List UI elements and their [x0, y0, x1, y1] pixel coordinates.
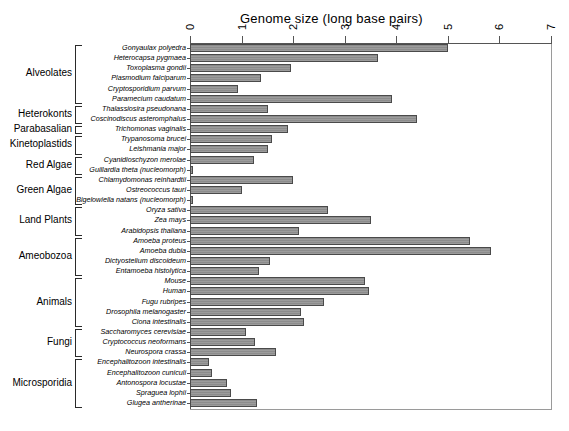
bar [190, 237, 470, 245]
group-bracket [75, 177, 82, 205]
x-tick-label-1: 1 [236, 20, 248, 34]
bar-row: Neurospora crassa [190, 348, 551, 358]
axis-line-right [551, 44, 552, 409]
bar-row: Heterocapsa pygmaea [190, 54, 551, 64]
bar [190, 196, 193, 204]
species-label: Thalassiosira pseudonana [102, 104, 186, 114]
x-tick-label-3: 3 [339, 20, 351, 34]
x-tick-label-5: 5 [442, 20, 454, 34]
species-label: Leishmania major [129, 144, 186, 154]
group-bracket [75, 136, 82, 154]
species-label: Ciona intestinalis [132, 317, 186, 327]
group-label-kinetoplastids: Kinetoplastids [0, 138, 72, 149]
bar [190, 227, 299, 235]
bar [190, 156, 254, 164]
bar [190, 318, 304, 326]
bar-row: Thalassiosira pseudonana [190, 105, 551, 115]
group-label-microsporidia: Microsporidia [0, 377, 72, 388]
species-label: Cryptosporidium parvum [108, 84, 186, 94]
x-tick-6 [499, 36, 500, 43]
bar [190, 64, 291, 72]
bar [190, 257, 270, 265]
bar-row: Fugu rubripes [190, 298, 551, 308]
x-tick-label-0: 0 [184, 20, 196, 34]
bar-row: Spraguea lophii [190, 389, 551, 399]
bar [190, 95, 392, 103]
bar [190, 338, 255, 346]
bar-row: Human [190, 287, 551, 297]
bar-row: Zea mays [190, 216, 551, 226]
species-label: Ostreococcus tauri [126, 185, 186, 195]
species-label: Glugea antherinae [127, 398, 186, 408]
species-label: Encephalitozoon intestinalis [97, 357, 186, 367]
bar-row: Arabidopsis thaliana [190, 227, 551, 237]
bar-row: Entamoeba histolytica [190, 267, 551, 277]
bar [190, 399, 257, 407]
x-tick-1 [242, 36, 243, 43]
bar [190, 287, 369, 295]
x-tick-0 [190, 36, 191, 43]
group-bracket [75, 278, 82, 327]
species-label: Gonyaulax polyedra [122, 43, 186, 53]
bar [190, 247, 491, 255]
bar-row: Paramecium caudatum [190, 95, 551, 105]
bar [190, 328, 246, 336]
species-label: Fugu rubripes [142, 297, 186, 307]
group-bracket [75, 207, 82, 235]
species-label: Amoeba dubia [140, 246, 186, 256]
group-bracket [75, 157, 82, 175]
bar [190, 115, 417, 123]
bar [190, 186, 242, 194]
species-label: Amoeba proteus [133, 236, 186, 246]
species-label: Trypanosoma brucei [121, 134, 186, 144]
group-label-land-plants: Land Plants [0, 214, 72, 225]
x-tick-2 [293, 36, 294, 43]
group-bracket [75, 329, 82, 357]
group-label-animals: Animals [0, 296, 72, 307]
group-bracket [75, 45, 82, 104]
bar-row: Ciona intestinalis [190, 318, 551, 328]
bar-row: Cyanidioschyzon merolae [190, 156, 551, 166]
species-label: Antonospora locustae [116, 378, 186, 388]
group-bracket [75, 238, 82, 277]
group-label-parabasalian: Parabasalian [0, 123, 72, 134]
species-label: Plasmodium falciparum [111, 73, 186, 83]
bar [190, 267, 259, 275]
bar [190, 54, 378, 62]
bar-row: Saccharomyces cerevisiae [190, 328, 551, 338]
bar-row: Gonyaulax polyedra [190, 44, 551, 54]
x-tick-7 [551, 36, 552, 43]
bar [190, 145, 268, 153]
axis-line-bottom [190, 409, 552, 410]
species-label: Entamoeba histolytica [116, 266, 186, 276]
species-label: Drosophila melanogaster [106, 307, 186, 317]
x-tick-label-2: 2 [287, 20, 299, 34]
bar-row: Ostreococcus tauri [190, 186, 551, 196]
bar [190, 85, 238, 93]
bar [190, 277, 365, 285]
species-label: Human [163, 286, 186, 296]
x-tick-4 [396, 36, 397, 43]
group-label-heterokonts: Heterokonts [0, 108, 72, 119]
bar [190, 369, 212, 377]
bar-row: Glugea antherinae [190, 399, 551, 409]
group-bracket [75, 359, 82, 408]
bar [190, 176, 293, 184]
bar-row: Trypanosoma brucei [190, 135, 551, 145]
group-label-ameobozoa: Ameobozoa [0, 250, 72, 261]
bar [190, 389, 231, 397]
species-label: Bigelowiella natans (nucleomorph) [76, 195, 186, 205]
x-tick-5 [448, 36, 449, 43]
bar-row: Antonospora locustae [190, 379, 551, 389]
bar [190, 358, 209, 366]
species-label: Encephalitozoon cuniculi [107, 368, 186, 378]
plot-area: Gonyaulax polyedraHeterocapsa pygmaeaTox… [190, 44, 551, 409]
species-label: Guillardia theta (nucleomorph) [89, 165, 186, 175]
species-label: Paramecium caudatum [112, 94, 186, 104]
species-label: Cyanidioschyzon merolae [104, 155, 186, 165]
bar-row: Amoeba proteus [190, 237, 551, 247]
bar-row: Drosophila melanogaster [190, 308, 551, 318]
species-label: Cryptococcus neoformans [103, 337, 187, 347]
bar-row: Guillardia theta (nucleomorph) [190, 166, 551, 176]
bar-row: Plasmodium falciparum [190, 74, 551, 84]
